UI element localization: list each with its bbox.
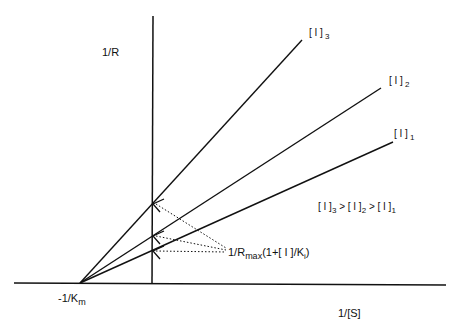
order-relation: [ I ]3 > [ I ]2 > [ I ]1 <box>318 201 396 215</box>
arrowhead-i1 <box>153 246 164 259</box>
arrowhead-i2 <box>153 231 164 244</box>
x-axis-label: 1/[S] <box>338 307 361 319</box>
x-axis <box>14 283 446 285</box>
leader-i1 <box>156 251 226 252</box>
line-i1 <box>80 142 393 283</box>
label-i2: [ I ]2 <box>389 75 410 89</box>
x-intercept-label: -1/Km <box>58 292 86 307</box>
label-i1: [ I ]1 <box>394 128 415 142</box>
lineweaver-burk-diagram: 1/R 1/[S] -1/Km [ I ]3 [ I ]2 [ I ]1 [ I… <box>0 0 455 332</box>
intercept-annotation: 1/Rmax(1+[ I ]/Ki) <box>228 246 309 261</box>
y-axis-label: 1/R <box>102 46 119 58</box>
y-axis <box>152 16 153 284</box>
leader-i2 <box>156 236 226 250</box>
label-i3: [ I ]3 <box>309 27 330 41</box>
